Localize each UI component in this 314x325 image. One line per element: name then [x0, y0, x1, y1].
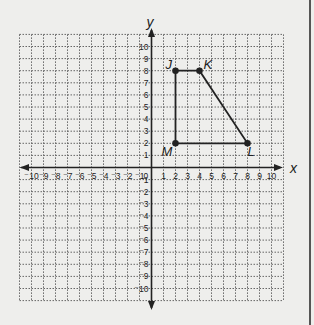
x-tick-label: ⁻9 — [39, 171, 49, 181]
x-tick-label: ⁻3 — [111, 171, 121, 181]
x-tick-label: 1 — [161, 171, 166, 181]
x-tick-label: ⁻8 — [51, 171, 61, 181]
y-tick-label: ⁻7 — [139, 247, 149, 257]
y-tick-label: ⁻9 — [139, 271, 149, 281]
vertex-label-k: K — [204, 57, 214, 72]
x-tick-label: 2 — [173, 171, 178, 181]
vertex-label-j: J — [165, 57, 173, 72]
y-tick-label: ⁻2 — [139, 187, 149, 197]
x-tick-label: 10 — [267, 171, 277, 181]
y-tick-label: ⁻1 — [139, 175, 149, 185]
y-tick-label: ⁻6 — [139, 235, 149, 245]
y-tick-label: 2 — [144, 138, 149, 148]
y-tick-label: 7 — [144, 78, 149, 88]
x-tick-label: ⁻6 — [75, 171, 85, 181]
y-tick-label: 9 — [144, 54, 149, 64]
x-tick-label: 4 — [197, 171, 202, 181]
coordinate-plane: xy0⁻10⁻9⁻8⁻7⁻6⁻5⁻4⁻3⁻2⁻11234567891010987… — [0, 0, 314, 325]
x-tick-label: 6 — [221, 171, 226, 181]
y-tick-label: 8 — [144, 66, 149, 76]
x-tick-label: 9 — [257, 171, 262, 181]
y-tick-label: ⁻4 — [139, 211, 149, 221]
y-tick-label: 10 — [139, 42, 149, 52]
page-border — [309, 0, 311, 325]
y-tick-label: 1 — [144, 150, 149, 160]
x-tick-label: 7 — [233, 171, 238, 181]
x-tick-label: ⁻5 — [87, 171, 97, 181]
y-tick-label: 3 — [144, 126, 149, 136]
x-tick-label: ⁻10 — [24, 171, 39, 181]
coordinate-grid: xy0⁻10⁻9⁻8⁻7⁻6⁻5⁻4⁻3⁻2⁻11234567891010987… — [0, 0, 314, 325]
vertex-point-j — [172, 67, 179, 74]
y-tick-label: ⁻10 — [134, 284, 149, 294]
vertex-point-m — [172, 140, 179, 147]
y-axis-down-arrow-icon — [148, 301, 155, 310]
y-axis-label: y — [146, 14, 155, 30]
vertex-label-m: M — [162, 144, 173, 159]
x-tick-label: 8 — [245, 171, 250, 181]
x-tick-label: ⁻2 — [123, 171, 133, 181]
vertex-point-k — [196, 67, 203, 74]
y-tick-label: 6 — [144, 90, 149, 100]
vertex-label-l: L — [248, 144, 255, 159]
y-tick-label: ⁻5 — [139, 223, 149, 233]
y-tick-label: 5 — [144, 102, 149, 112]
x-tick-label: ⁻4 — [99, 171, 109, 181]
x-tick-label: 3 — [185, 171, 190, 181]
x-tick-label: 5 — [209, 171, 214, 181]
y-tick-label: ⁻8 — [139, 259, 149, 269]
x-axis-label: x — [289, 160, 298, 176]
y-tick-label: 4 — [144, 114, 149, 124]
x-tick-label: ⁻7 — [63, 171, 73, 181]
y-tick-label: ⁻3 — [139, 199, 149, 209]
